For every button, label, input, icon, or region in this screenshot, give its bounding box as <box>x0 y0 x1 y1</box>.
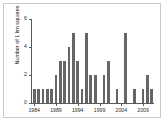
x-tick-mark <box>121 104 122 106</box>
chart-figure: Number of 1 km squares 0246 198419891994… <box>0 0 164 124</box>
bar <box>33 89 36 103</box>
bar <box>142 89 145 103</box>
bar <box>76 61 79 103</box>
bar <box>46 89 49 103</box>
bar <box>81 89 84 103</box>
y-tick-label: 2 <box>24 72 27 77</box>
y-tick-label: 4 <box>24 44 27 49</box>
x-tick-mark <box>56 104 57 106</box>
bar <box>150 89 153 103</box>
x-axis-line <box>31 103 154 104</box>
y-tick-label: 6 <box>24 16 27 21</box>
x-tick-label: 1989 <box>47 107 65 113</box>
bar <box>116 89 119 103</box>
bar <box>146 75 149 103</box>
bar <box>37 89 40 103</box>
bar <box>103 75 106 103</box>
x-tick-mark <box>100 104 101 106</box>
bar <box>89 75 92 103</box>
bar <box>124 33 127 103</box>
bar <box>50 89 53 103</box>
x-tick-mark <box>143 104 144 106</box>
y-axis-ticks: 0246 <box>0 0 31 124</box>
x-tick-label: 1999 <box>91 107 109 113</box>
x-tick-label: 1984 <box>25 107 43 113</box>
bar <box>85 33 88 103</box>
bar <box>63 61 66 103</box>
bar <box>94 75 97 103</box>
bar <box>68 47 71 103</box>
bar <box>55 75 58 103</box>
x-tick-mark <box>34 104 35 106</box>
bar <box>59 61 62 103</box>
y-tick-mark <box>29 103 31 104</box>
y-tick-mark <box>29 19 31 20</box>
bar <box>72 33 75 103</box>
bar <box>107 61 110 103</box>
x-tick-label: 2004 <box>112 107 130 113</box>
x-tick-mark <box>78 104 79 106</box>
y-tick-mark <box>29 75 31 76</box>
y-tick-mark <box>29 47 31 48</box>
x-tick-label: 2009 <box>134 107 152 113</box>
y-tick-label: 0 <box>24 100 27 105</box>
x-tick-label: 1994 <box>69 107 87 113</box>
bar <box>42 89 45 103</box>
bar-series <box>32 19 154 103</box>
bar <box>133 89 136 103</box>
